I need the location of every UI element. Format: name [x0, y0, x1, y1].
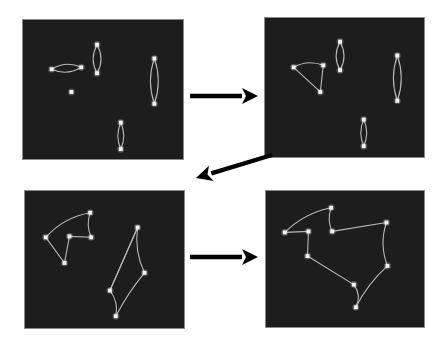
- tour-edge: [137, 227, 145, 272]
- graph-canvas-top-right: [265, 18, 424, 157]
- tour-edge: [97, 45, 101, 74]
- graph-node[interactable]: [88, 211, 92, 215]
- graph-node[interactable]: [119, 121, 123, 125]
- tour-edge: [307, 231, 308, 256]
- panel-top-right[interactable]: [264, 17, 425, 158]
- graph-node[interactable]: [283, 230, 287, 234]
- graph-node[interactable]: [79, 65, 83, 69]
- edge-group: [285, 208, 388, 308]
- graph-node[interactable]: [321, 63, 325, 67]
- tour-edge: [307, 256, 353, 285]
- node-group: [290, 38, 401, 150]
- graph-canvas-bottom-left: [25, 191, 184, 328]
- graph-node[interactable]: [338, 40, 342, 44]
- panel-bottom-right[interactable]: [265, 190, 425, 328]
- tour-edge: [116, 273, 145, 316]
- tour-edge: [110, 291, 117, 317]
- edge-group: [294, 42, 402, 146]
- graph-node[interactable]: [385, 221, 389, 225]
- graph-node[interactable]: [395, 99, 399, 103]
- tour-edge: [320, 65, 323, 92]
- graph-node[interactable]: [44, 235, 48, 239]
- tour-edge: [110, 227, 138, 290]
- arrow-shaft: [190, 94, 242, 98]
- graph-node[interactable]: [152, 56, 156, 60]
- graph-node[interactable]: [89, 235, 93, 239]
- tour-edge: [336, 42, 340, 71]
- tour-edge: [332, 223, 386, 232]
- graph-node[interactable]: [354, 305, 358, 309]
- arrow-head: [242, 249, 258, 265]
- graph-node[interactable]: [395, 53, 399, 57]
- figure-root: [0, 0, 446, 344]
- graph-node[interactable]: [352, 283, 356, 287]
- graph-node[interactable]: [306, 254, 310, 258]
- tour-edge: [65, 236, 70, 263]
- graph-node[interactable]: [119, 147, 123, 151]
- graph-node[interactable]: [50, 67, 54, 71]
- graph-node[interactable]: [152, 102, 156, 106]
- graph-canvas-bottom-right: [266, 191, 424, 327]
- arrow-3: [190, 249, 258, 265]
- tour-edge: [356, 266, 388, 307]
- tour-edge: [393, 55, 397, 100]
- arrow-head: [242, 88, 258, 104]
- graph-node[interactable]: [67, 234, 71, 238]
- node-group: [48, 41, 158, 153]
- tour-edge: [329, 208, 332, 232]
- graph-node[interactable]: [69, 90, 73, 94]
- tour-edge: [383, 223, 387, 266]
- graph-node[interactable]: [136, 225, 140, 229]
- tour-edge: [46, 237, 65, 263]
- graph-node[interactable]: [362, 118, 366, 122]
- edge-group: [46, 213, 145, 316]
- tour-edge: [52, 64, 82, 69]
- arrow-head: [196, 166, 214, 181]
- tour-edge: [150, 58, 154, 103]
- edge-group: [52, 45, 159, 149]
- panel-bottom-left[interactable]: [24, 190, 185, 329]
- graph-node[interactable]: [95, 43, 99, 47]
- graph-canvas-top-left: [23, 20, 183, 159]
- graph-node[interactable]: [108, 289, 112, 293]
- tour-edge: [364, 120, 367, 147]
- node-group: [281, 204, 391, 311]
- arrow-shaft: [190, 255, 242, 259]
- graph-node[interactable]: [329, 206, 333, 210]
- tour-edge: [294, 67, 321, 92]
- graph-node[interactable]: [143, 271, 147, 275]
- graph-node[interactable]: [318, 90, 322, 94]
- graph-node[interactable]: [385, 264, 389, 268]
- tour-edge: [397, 55, 401, 100]
- tour-edge: [52, 67, 82, 72]
- graph-node[interactable]: [95, 71, 99, 75]
- tour-edge: [294, 63, 324, 67]
- tour-edge: [121, 123, 124, 150]
- tour-edge: [93, 45, 97, 74]
- panel-top-left[interactable]: [22, 19, 184, 160]
- tour-edge: [361, 120, 364, 147]
- tour-edge: [118, 123, 121, 150]
- graph-node[interactable]: [338, 68, 342, 72]
- graph-node[interactable]: [114, 314, 118, 318]
- graph-node[interactable]: [292, 65, 296, 69]
- arrow-1: [190, 88, 258, 104]
- graph-node[interactable]: [330, 229, 334, 233]
- tour-edge: [154, 58, 158, 103]
- graph-node[interactable]: [63, 261, 67, 265]
- tour-edge: [285, 231, 309, 232]
- tour-edge: [88, 213, 91, 238]
- arrow-2: [196, 153, 273, 181]
- graph-node[interactable]: [362, 144, 366, 148]
- graph-node[interactable]: [306, 229, 310, 233]
- tour-edge: [340, 42, 344, 71]
